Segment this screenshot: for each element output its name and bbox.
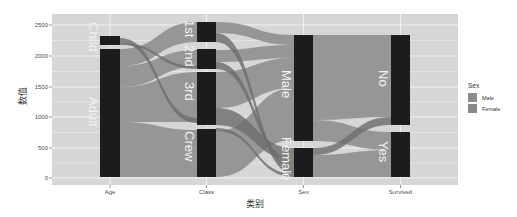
- y-tick-1500: 1500: [35, 84, 49, 90]
- x-axis: [110, 185, 401, 188]
- x-tick-survived: Survived: [389, 189, 412, 195]
- stratum-adult: [100, 49, 120, 177]
- y-tick-1000: 1000: [35, 114, 49, 120]
- legend-title: Sex: [468, 82, 480, 89]
- stratum-yes: [391, 132, 410, 177]
- y-tick-500: 500: [38, 145, 49, 151]
- stratum-male: [294, 35, 313, 141]
- label-female: Female: [279, 137, 294, 180]
- label-child: Child: [86, 22, 101, 52]
- x-tick-labels: Age Class Sex Survived: [105, 189, 413, 195]
- y-tick-labels: 0 500 1000 1500 2000 2500: [35, 22, 49, 181]
- legend-key-female: [468, 104, 477, 113]
- legend-label-female: Female: [482, 106, 500, 112]
- legend: Sex Male Female: [468, 82, 500, 113]
- stratum-no: [391, 35, 410, 125]
- x-tick-class: Class: [199, 189, 214, 195]
- x-axis-title: 类别: [246, 198, 264, 209]
- stratum-1st: [197, 22, 216, 42]
- stratum-3rd: [197, 72, 216, 125]
- x-tick-age: Age: [105, 189, 116, 195]
- alluvial-chart: Child Adult 1st 2nd 3rd Crew Male Female…: [0, 0, 517, 217]
- stratum-2nd: [197, 49, 216, 69]
- stratum-child: [100, 36, 120, 45]
- y-tick-0: 0: [45, 175, 49, 181]
- x-tick-sex: Sex: [298, 189, 308, 195]
- y-axis-title: 数值: [17, 87, 28, 105]
- y-tick-2000: 2000: [35, 53, 49, 59]
- stratum-crew: [197, 129, 216, 177]
- legend-key-male: [468, 93, 477, 102]
- label-3rd: 3rd: [182, 82, 197, 101]
- y-tick-2500: 2500: [35, 22, 49, 28]
- legend-label-male: Male: [482, 95, 494, 101]
- label-2nd: 2nd: [182, 45, 197, 67]
- y-axis: [49, 25, 52, 178]
- label-adult: Adult: [86, 97, 101, 127]
- label-1st: 1st: [182, 20, 197, 38]
- label-male: Male: [279, 70, 294, 98]
- label-no: No: [376, 70, 391, 87]
- label-yes: Yes: [376, 141, 391, 163]
- stratum-female: [294, 148, 313, 177]
- label-crew: Crew: [182, 131, 197, 162]
